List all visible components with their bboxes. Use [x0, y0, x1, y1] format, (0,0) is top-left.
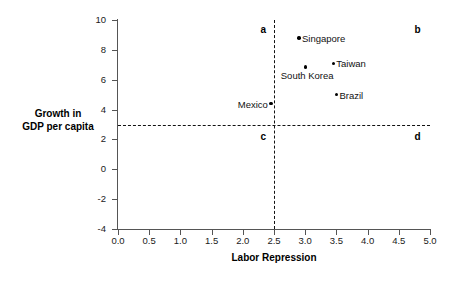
y-tick-mark: [112, 110, 117, 111]
data-point-label: Brazil: [339, 89, 363, 100]
quadrant-label-a: a: [261, 23, 267, 34]
y-tick-label: 6: [66, 75, 106, 85]
data-point-label: Taiwan: [336, 58, 366, 69]
y-tick-mark: [112, 50, 117, 51]
y-tick-mark: [112, 80, 117, 81]
y-tick-label: 0: [66, 164, 106, 174]
data-point: [304, 65, 307, 68]
y-tick-mark: [112, 20, 117, 21]
quadrant-label-d: d: [414, 131, 420, 142]
y-axis-title-line2: GDP per capita: [22, 121, 94, 132]
data-point-label: Singapore: [302, 32, 345, 43]
quadrant-label-c: c: [261, 131, 267, 142]
data-point: [335, 93, 338, 96]
y-tick-label: -2: [66, 194, 106, 204]
data-point: [269, 102, 272, 105]
horizontal-threshold: [118, 125, 430, 126]
y-tick-mark: [112, 139, 117, 140]
x-tick-label: 5.0: [410, 236, 450, 246]
scatter-plot-figure: 1086420-2-4 0.00.51.01.52.02.53.03.54.04…: [0, 0, 453, 283]
data-point: [332, 62, 335, 65]
y-tick-mark: [112, 199, 117, 200]
data-point-label: Mexico: [238, 98, 268, 109]
y-axis-title: Growth in GDP per capita: [8, 108, 108, 133]
data-point-label: South Korea: [281, 70, 334, 81]
y-tick-label: 2: [66, 134, 106, 144]
y-tick-label: 8: [66, 45, 106, 55]
x-axis-title: Labor Repression: [118, 252, 430, 263]
data-point: [297, 36, 300, 39]
y-tick-label: -4: [66, 224, 106, 234]
y-axis-title-line1: Growth in: [35, 108, 82, 119]
y-tick-label: 10: [66, 15, 106, 25]
quadrant-label-b: b: [414, 23, 420, 34]
y-tick-mark: [112, 229, 117, 230]
y-tick-mark: [112, 169, 117, 170]
